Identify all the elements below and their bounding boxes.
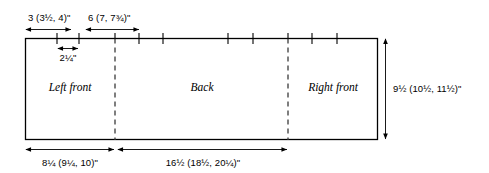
top-dimension-2-label: 6 (7, 7¾)" [88, 12, 130, 23]
diagram-canvas: 3 (3½, 4)" 6 (7, 7¾)" 2¼" Le [0, 0, 489, 173]
pattern-diagram: 3 (3½, 4)" 6 (7, 7¾)" 2¼" Le [0, 0, 489, 173]
panel-label-left-front: Left front [48, 81, 93, 94]
bottom-dimension-1-label: 8¼ (9¼, 10)" [42, 157, 98, 168]
inner-dimension-label: 2¼" [60, 52, 77, 63]
panel-label-back: Back [191, 81, 215, 93]
bottom-dimension-2-label: 16½ (18½, 20¼)" [166, 157, 241, 168]
panel-label-right-front: Right front [307, 81, 359, 94]
right-dimension-label: 9½ (10½, 11½)" [393, 83, 462, 94]
top-dimension-1-label: 3 (3½, 4)" [28, 12, 70, 23]
